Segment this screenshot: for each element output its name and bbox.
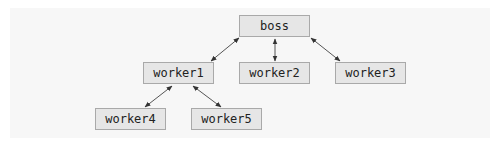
edge-worker1-worker4 [145, 86, 172, 107]
node-label: boss [260, 19, 289, 33]
node-label: worker3 [345, 66, 396, 80]
node-worker3: worker3 [335, 62, 406, 84]
node-label: worker1 [153, 66, 204, 80]
edge-worker1-worker5 [193, 86, 221, 107]
node-label: worker2 [249, 66, 300, 80]
node-worker4: worker4 [95, 108, 166, 130]
node-boss: boss [239, 15, 310, 37]
node-label: worker5 [201, 112, 252, 126]
edge-boss-worker1 [211, 38, 239, 61]
node-worker5: worker5 [191, 108, 262, 130]
edge-boss-worker3 [311, 38, 340, 61]
node-label: worker4 [105, 112, 156, 126]
node-worker2: worker2 [239, 62, 310, 84]
node-worker1: worker1 [143, 62, 214, 84]
